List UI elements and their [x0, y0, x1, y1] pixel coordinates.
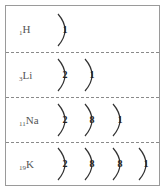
electron-shell: 1: [112, 103, 126, 137]
electron-count: 1: [60, 24, 70, 35]
element-symbol: Li: [23, 69, 33, 81]
element-row-lithium: 3Li 21: [6, 53, 159, 98]
electron-shell: 1: [84, 58, 98, 92]
electron-shell: 1: [138, 147, 152, 181]
element-row-hydrogen: 1H 1: [6, 6, 159, 53]
atomic-number: 1: [19, 29, 23, 37]
element-label: 3Li: [19, 69, 32, 81]
electron-shell: 8: [84, 103, 98, 137]
electron-count: 1: [141, 158, 151, 169]
element-symbol: Na: [26, 114, 39, 126]
electron-count: 8: [115, 158, 125, 169]
electron-shell: 2: [57, 103, 71, 137]
electron-shell-table: 1H 1 3Li 21 11Na 281 19K 2881: [5, 5, 160, 186]
electron-shell: 8: [84, 147, 98, 181]
element-symbol: H: [23, 23, 31, 35]
element-label: 1H: [19, 23, 30, 35]
electron-shell: 2: [57, 147, 71, 181]
atomic-number: 3: [19, 75, 23, 83]
atomic-number: 11: [19, 120, 26, 128]
element-symbol: K: [26, 158, 34, 170]
electron-shell: 2: [57, 58, 71, 92]
element-label: 11Na: [19, 114, 39, 126]
electron-count: 8: [87, 114, 97, 125]
electron-count: 1: [87, 69, 97, 80]
electron-count: 1: [115, 114, 125, 125]
electron-shell: 1: [57, 13, 71, 47]
element-row-sodium: 11Na 281: [6, 98, 159, 143]
electron-count: 2: [60, 69, 70, 80]
electron-count: 8: [87, 158, 97, 169]
electron-shell: 8: [112, 147, 126, 181]
element-row-potassium: 19K 2881: [6, 143, 159, 187]
electron-count: 2: [60, 114, 70, 125]
element-label: 19K: [19, 158, 34, 170]
electron-count: 2: [60, 158, 70, 169]
atomic-number: 19: [19, 164, 26, 172]
